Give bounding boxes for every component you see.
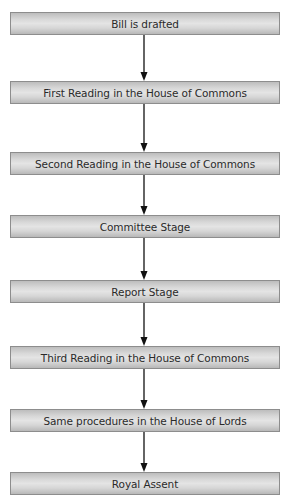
step-first-reading: First Reading in the House of Commons bbox=[10, 81, 280, 104]
step-label: Second Reading in the House of Commons bbox=[35, 158, 255, 170]
step-committee-stage: Committee Stage bbox=[10, 215, 280, 238]
step-label: Committee Stage bbox=[100, 221, 190, 233]
step-second-reading: Second Reading in the House of Commons bbox=[10, 152, 280, 175]
step-label: Same procedures in the House of Lords bbox=[43, 415, 246, 427]
step-house-of-lords: Same procedures in the House of Lords bbox=[10, 409, 280, 432]
arrow-down-icon bbox=[140, 104, 148, 152]
step-report-stage: Report Stage bbox=[10, 280, 280, 303]
arrow-down-icon bbox=[140, 303, 148, 346]
arrow-down-icon bbox=[140, 175, 148, 215]
step-label: First Reading in the House of Commons bbox=[43, 87, 247, 99]
step-label: Bill is drafted bbox=[111, 18, 179, 30]
step-third-reading: Third Reading in the House of Commons bbox=[10, 346, 280, 369]
arrow-down-icon bbox=[140, 369, 148, 409]
step-royal-assent: Royal Assent bbox=[10, 472, 280, 495]
step-label: Report Stage bbox=[111, 286, 178, 298]
step-bill-drafted: Bill is drafted bbox=[10, 12, 280, 35]
step-label: Third Reading in the House of Commons bbox=[41, 352, 249, 364]
arrow-down-icon bbox=[140, 238, 148, 280]
arrow-down-icon bbox=[140, 35, 148, 81]
step-label: Royal Assent bbox=[112, 478, 178, 490]
arrow-down-icon bbox=[140, 432, 148, 472]
